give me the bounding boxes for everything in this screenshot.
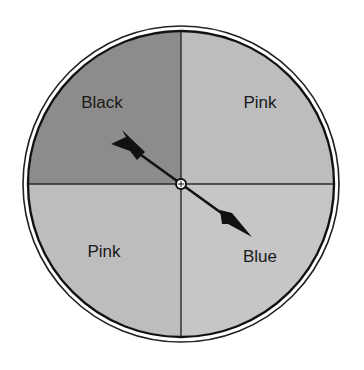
section-label-pink-top: Pink bbox=[243, 93, 277, 112]
section-label-black: Black bbox=[81, 93, 123, 112]
section-label-pink-bottom: Pink bbox=[87, 242, 121, 261]
spinner: Black Pink Pink Blue bbox=[0, 0, 364, 370]
section-label-blue: Blue bbox=[243, 247, 277, 266]
